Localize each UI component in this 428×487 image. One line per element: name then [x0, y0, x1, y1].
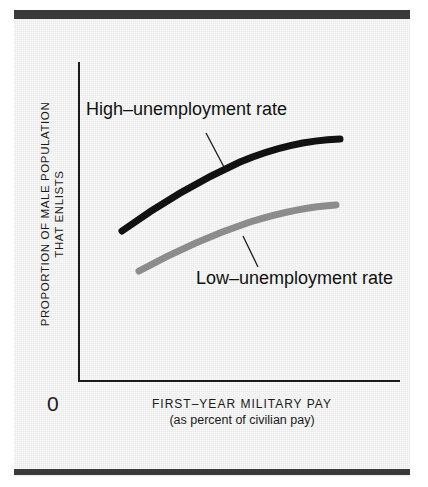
series-low-unemployment-curve	[139, 205, 336, 271]
low-unemployment-label: Low–unemployment rate	[196, 268, 393, 289]
y-axis-title-line2: THAT ENLISTS	[53, 170, 65, 257]
origin-label: 0	[47, 392, 59, 416]
low-label-leader-line	[243, 236, 258, 267]
high-label-leader-line	[206, 133, 225, 169]
y-axis-title-line1: PROPORTION OF MALE POPULATION	[39, 102, 51, 327]
x-axis-title: FIRST–YEAR MILITARY PAY (as percent of c…	[108, 396, 376, 428]
chart-figure: PROPORTION OF MALE POPULATIONTHAT ENLIST…	[0, 0, 428, 487]
high-unemployment-label: High–unemployment rate	[86, 99, 287, 120]
series-high-unemployment-curve	[122, 139, 340, 231]
x-axis-title-line2: (as percent of civilian pay)	[108, 412, 376, 428]
y-axis-title: PROPORTION OF MALE POPULATIONTHAT ENLIST…	[38, 99, 66, 329]
x-axis-title-line1: FIRST–YEAR MILITARY PAY	[108, 396, 376, 412]
